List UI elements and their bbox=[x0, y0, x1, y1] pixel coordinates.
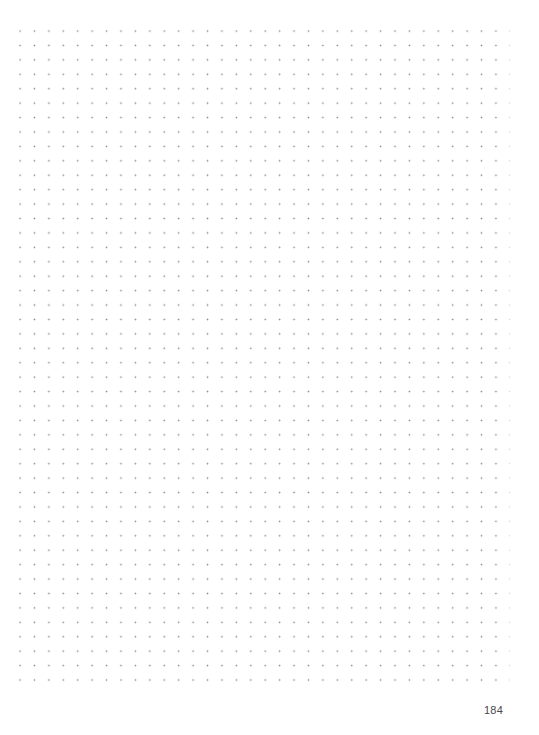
page-number: 184 bbox=[484, 704, 503, 716]
dot-grid bbox=[19, 30, 510, 682]
notebook-page: 184 bbox=[0, 0, 539, 735]
